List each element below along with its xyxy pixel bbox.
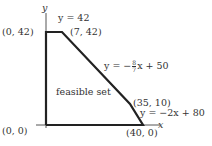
vertex-label-0-42: (0, 42)	[2, 27, 34, 37]
line-label-slope-8-7: y = −87x + 50	[104, 60, 169, 73]
feasible-region-graph	[0, 0, 212, 146]
line-label-y42: y = 42	[58, 13, 89, 23]
y-axis-label: y	[42, 3, 47, 13]
vertex-label-0-0: (0, 0)	[2, 126, 28, 136]
line-label-y-neg2x-80: y = −2x + 80	[140, 108, 205, 118]
vertex-label-7-42: (7, 42)	[70, 27, 102, 37]
x-axis-label: x	[158, 120, 163, 130]
vertex-label-40-0: (40, 0)	[126, 128, 158, 138]
region-label: feasible set	[56, 87, 111, 97]
feasible-region-boundary	[46, 32, 143, 125]
